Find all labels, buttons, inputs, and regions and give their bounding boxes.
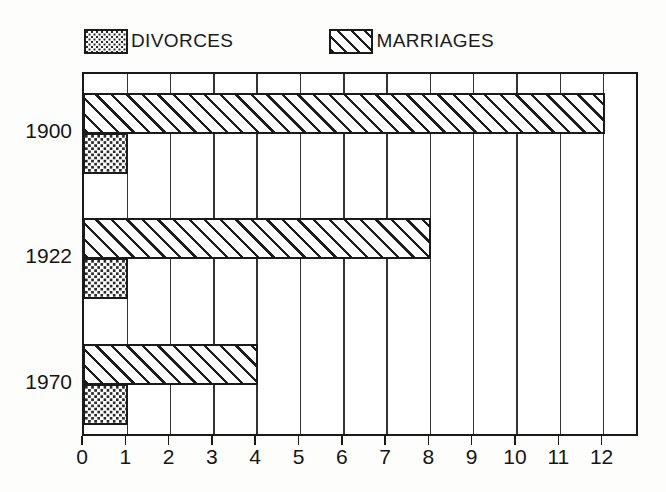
bar-marriages-1970 [83, 344, 258, 385]
x-tick-label-8: 8 [423, 445, 435, 469]
x-tick-mark [125, 436, 127, 445]
bar-divorces-1970 [83, 384, 128, 425]
x-tick-label-3: 3 [206, 445, 218, 469]
x-tick-label-5: 5 [293, 445, 305, 469]
x-tick-mark [211, 436, 213, 445]
diagonal-hatch-swatch-icon [329, 29, 373, 54]
y-tick-label-1900: 1900 [20, 119, 72, 143]
x-tick-label-6: 6 [336, 445, 348, 469]
x-tick-label-9: 9 [466, 445, 478, 469]
x-tick-mark [81, 436, 83, 445]
x-tick-label-1: 1 [119, 445, 131, 469]
y-tick-label-1970: 1970 [20, 370, 72, 394]
x-tick-label-7: 7 [379, 445, 391, 469]
x-tick-label-10: 10 [503, 445, 526, 469]
x-tick-mark [558, 436, 560, 445]
x-tick-mark [254, 436, 256, 445]
bar-divorces-1900 [83, 133, 128, 174]
bar-marriages-1900 [83, 93, 605, 134]
x-tick-mark [471, 436, 473, 445]
x-tick-mark [428, 436, 430, 445]
x-tick-label-12: 12 [590, 445, 613, 469]
bar-group-container [84, 74, 636, 434]
chart-legend: DIVORCES MARRIAGES [84, 24, 494, 58]
bar-marriages-1922 [83, 218, 431, 259]
x-tick-mark [341, 436, 343, 445]
x-tick-label-11: 11 [547, 445, 569, 469]
bar-divorces-1922 [83, 258, 128, 299]
x-tick-label-2: 2 [163, 445, 175, 469]
x-tick-mark [601, 436, 603, 445]
x-tick-mark [298, 436, 300, 445]
legend-label-divorces: DIVORCES [131, 30, 233, 52]
x-tick-label-4: 4 [249, 445, 261, 469]
x-tick-label-0: 0 [76, 445, 88, 469]
x-tick-mark [514, 436, 516, 445]
chart-figure: DIVORCES MARRIAGES 0123456789101112 1900… [0, 0, 666, 492]
x-tick-mark [168, 436, 170, 445]
legend-item-divorces: DIVORCES [84, 29, 233, 54]
dots-swatch-icon [84, 29, 128, 54]
legend-item-marriages: MARRIAGES [329, 29, 494, 54]
plot-area [82, 72, 638, 436]
y-tick-label-1922: 1922 [20, 244, 72, 268]
legend-label-marriages: MARRIAGES [376, 30, 494, 52]
x-tick-mark [384, 436, 386, 445]
